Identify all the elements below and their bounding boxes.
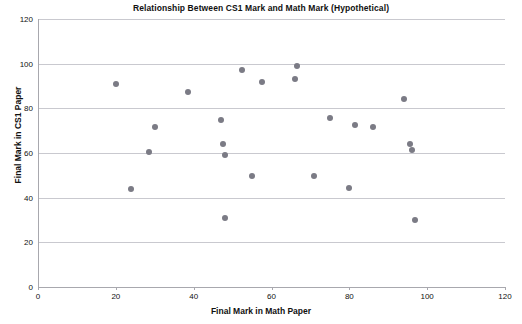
data-point [128,186,134,192]
x-tickmark-80 [349,287,350,290]
data-point [222,215,228,221]
data-point [259,79,265,85]
chart-title: Relationship Between CS1 Mark and Math M… [0,3,522,13]
data-point [311,173,317,179]
x-tickmark-120 [505,287,506,290]
gridline-y-120 [38,19,505,20]
data-point [222,152,228,158]
x-tickmark-100 [427,287,428,290]
x-tickmark-60 [272,287,273,290]
x-tick-label-60: 60 [252,292,292,301]
data-point [152,124,158,130]
x-tick-label-100: 100 [407,292,447,301]
x-tick-label-0: 0 [18,292,58,301]
data-point [327,115,333,121]
scatter-chart-figure: Relationship Between CS1 Mark and Math M… [0,0,522,324]
data-point [352,122,358,128]
data-point [412,217,418,223]
y-axis-line [38,19,39,288]
data-point [346,185,352,191]
gridline-y-20 [38,242,505,243]
gridline-y-40 [38,198,505,199]
data-point [409,147,415,153]
data-point [292,76,298,82]
x-tick-label-20: 20 [96,292,136,301]
y-tick-label-120: 120 [3,15,33,24]
y-tick-label-0: 0 [3,283,33,292]
data-point [146,149,152,155]
data-point [185,89,191,95]
data-point [239,67,245,73]
x-tickmark-20 [116,287,117,290]
data-point [220,141,226,147]
x-axis-ticks: 020406080100120 [38,292,505,306]
y-axis-label: Final Mark in CS1 Paper [13,55,23,215]
x-tickmark-40 [194,287,195,290]
gridline-y-100 [38,64,505,65]
data-point [370,124,376,130]
gridline-y-80 [38,108,505,109]
gridline-y-60 [38,153,505,154]
y-tick-label-20: 20 [3,238,33,247]
x-tickmark-0 [38,287,39,290]
data-point [249,173,255,179]
data-point [401,96,407,102]
x-tick-label-120: 120 [485,292,522,301]
data-point [294,63,300,69]
x-axis-label: Final Mark in Math Paper [0,306,522,316]
data-point [113,81,119,87]
x-tick-label-40: 40 [174,292,214,301]
data-point [218,117,224,123]
x-tick-label-80: 80 [329,292,369,301]
plot-area [38,19,505,287]
